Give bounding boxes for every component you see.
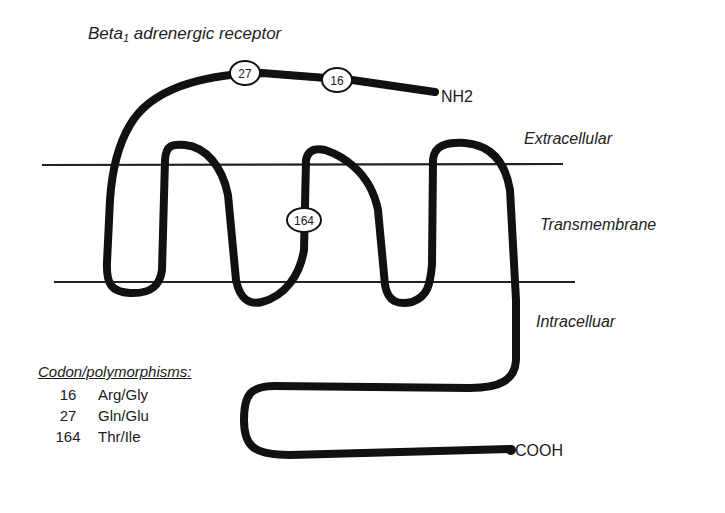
legend-row: 16 Arg/Gly bbox=[38, 384, 191, 405]
legend-codon: 16 bbox=[38, 386, 98, 403]
legend-codon: 164 bbox=[38, 428, 98, 445]
legend-codon: 27 bbox=[38, 407, 98, 424]
marker-codon-27: 27 bbox=[230, 61, 260, 85]
c-terminus-label: COOH bbox=[515, 442, 563, 460]
n-terminus-label: NH2 bbox=[441, 88, 473, 106]
legend-polymorphism: Thr/Ile bbox=[98, 428, 188, 445]
legend-row: 164 Thr/Ile bbox=[38, 426, 191, 447]
legend-polymorphism: Arg/Gly bbox=[98, 386, 188, 403]
marker-codon-164: 164 bbox=[287, 208, 321, 232]
polymorphism-legend: Codon/polymorphisms: 16 Arg/Gly 27 Gln/G… bbox=[38, 363, 191, 447]
legend-row: 27 Gln/Glu bbox=[38, 405, 191, 426]
region-label-extracellular: Extracellular bbox=[524, 130, 612, 148]
marker-label-27: 27 bbox=[238, 67, 252, 81]
n-terminus-end bbox=[432, 89, 439, 96]
region-label-transmembrane: Transmembrane bbox=[540, 216, 656, 234]
marker-label-16: 16 bbox=[330, 74, 344, 88]
legend-polymorphism: Gln/Glu bbox=[98, 407, 188, 424]
legend-heading: Codon/polymorphisms: bbox=[38, 363, 191, 380]
marker-codon-16: 16 bbox=[322, 68, 352, 92]
region-label-intracellular: Intracelluar bbox=[536, 313, 615, 331]
marker-label-164: 164 bbox=[294, 214, 314, 228]
